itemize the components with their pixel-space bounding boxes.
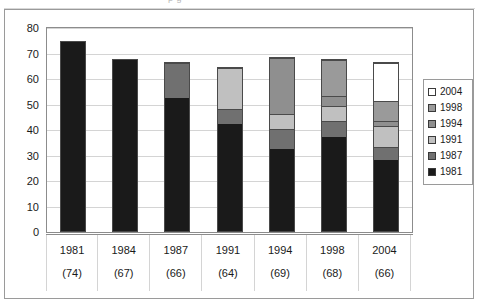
plot-area [46, 27, 413, 233]
legend-swatch-icon [428, 136, 436, 144]
y-axis-tick-label: 60 [27, 74, 39, 85]
x-axis-cell: 1987(66) [150, 235, 202, 291]
bar-segment-1987[interactable] [165, 63, 189, 99]
gridline [47, 28, 412, 29]
bar-stack[interactable] [321, 59, 347, 232]
bar-segment-1998[interactable] [322, 60, 346, 96]
y-axis-tick-label: 30 [27, 150, 39, 161]
bar-segment-1987[interactable] [270, 129, 294, 149]
bar-segment-2004[interactable] [374, 63, 398, 101]
bar-stack[interactable] [112, 59, 138, 232]
legend-item-1987[interactable]: 1987 [428, 148, 469, 164]
bar-segment-1991[interactable] [270, 114, 294, 129]
x-axis-cell: 1998(68) [307, 235, 359, 291]
x-axis-count-label: (66) [359, 267, 410, 279]
bar-segment-1981[interactable] [270, 149, 294, 231]
legend-item-2004[interactable]: 2004 [428, 84, 469, 100]
bar-segment-1987[interactable] [374, 147, 398, 160]
y-axis-tick-label: 10 [27, 201, 39, 212]
chart-frame: 01020304050607080 1981(74)1984(67)1987(6… [4, 9, 474, 299]
x-axis-cell: 1981(74) [46, 235, 98, 291]
legend-item-1991[interactable]: 1991 [428, 132, 469, 148]
x-axis-count-label: (74) [47, 267, 97, 279]
bar-segment-1981[interactable] [113, 60, 137, 231]
bar-stack[interactable] [60, 41, 86, 232]
legend-swatch-icon [428, 120, 436, 128]
x-axis-cell: 1984(67) [98, 235, 150, 291]
x-axis-count-label: (64) [202, 267, 253, 279]
legend-item-1994[interactable]: 1994 [428, 116, 469, 132]
x-axis-count-label: (66) [150, 267, 201, 279]
bar-stack[interactable] [164, 62, 190, 232]
legend-swatch-icon [428, 88, 436, 96]
chart-legend: 200419981994199119871981 [423, 79, 473, 185]
x-axis-year-label: 1984 [98, 244, 149, 256]
bar-segment-1991[interactable] [374, 126, 398, 146]
y-axis-tick-label: 40 [27, 125, 39, 136]
cropped-title-text: p g [168, 0, 182, 3]
y-axis-tick-label: 50 [27, 99, 39, 110]
bar-segment-1998[interactable] [374, 101, 398, 121]
y-axis: 01020304050607080 [5, 27, 43, 233]
x-axis-cell: 1994(69) [255, 235, 307, 291]
bar-segment-1981[interactable] [374, 160, 398, 231]
x-axis-count-label: (68) [307, 267, 358, 279]
x-axis-cell: 1991(64) [202, 235, 254, 291]
bar-segment-1994[interactable] [322, 96, 346, 106]
bar-segment-1991[interactable] [322, 106, 346, 121]
legend-swatch-icon [428, 152, 436, 160]
y-axis-tick-label: 70 [27, 48, 39, 59]
y-axis-tick-label: 0 [33, 227, 39, 238]
legend-item-1981[interactable]: 1981 [428, 164, 469, 180]
x-axis-year-label: 1987 [150, 244, 201, 256]
legend-item-label: 2004 [440, 87, 462, 97]
x-axis-count-label: (67) [98, 267, 149, 279]
x-axis-year-label: 1998 [307, 244, 358, 256]
bar-segment-1981[interactable] [165, 98, 189, 231]
bar-segment-1991[interactable] [218, 68, 242, 109]
y-axis-tick-label: 80 [27, 23, 39, 34]
bar-stack[interactable] [373, 62, 399, 232]
x-axis-year-label: 2004 [359, 244, 410, 256]
x-axis-year-label: 1994 [255, 244, 306, 256]
legend-swatch-icon [428, 104, 436, 112]
y-axis-tick-label: 20 [27, 176, 39, 187]
legend-item-label: 1994 [440, 119, 462, 129]
x-axis-count-label: (69) [255, 267, 306, 279]
legend-swatch-icon [428, 168, 436, 176]
bar-segment-1987[interactable] [218, 109, 242, 124]
bar-segment-1981[interactable] [61, 42, 85, 231]
legend-item-label: 1987 [440, 151, 462, 161]
legend-item-label: 1991 [440, 135, 462, 145]
cropped-title-remnant: p g [0, 0, 479, 9]
legend-item-1998[interactable]: 1998 [428, 100, 469, 116]
x-axis-year-label: 1991 [202, 244, 253, 256]
bar-segment-1987[interactable] [322, 121, 346, 136]
x-axis-cell: 2004(66) [359, 235, 411, 291]
x-axis-year-label: 1981 [47, 244, 97, 256]
bar-segment-1981[interactable] [218, 124, 242, 231]
bar-stack[interactable] [217, 67, 243, 232]
bar-stack[interactable] [269, 57, 295, 232]
bar-segment-1994[interactable] [270, 58, 294, 114]
x-axis: 1981(74)1984(67)1987(66)1991(64)1994(69)… [46, 234, 413, 290]
legend-item-label: 1998 [440, 103, 462, 113]
gridline [47, 54, 412, 55]
bar-segment-1981[interactable] [322, 137, 346, 231]
legend-item-label: 1981 [440, 167, 462, 177]
